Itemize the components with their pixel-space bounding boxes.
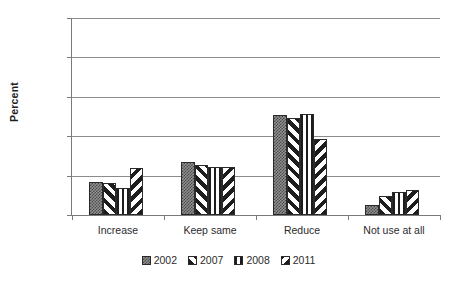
bar-2008-not-use-at-all[interactable] [392, 192, 406, 215]
x-axis-label-reduce: Reduce [256, 224, 348, 236]
bar-group [273, 18, 327, 215]
bar-2002-increase[interactable] [89, 182, 103, 215]
x-tick-mark [72, 215, 73, 220]
bar-2008-keep-same[interactable] [208, 167, 222, 215]
x-tick-mark [348, 215, 349, 220]
bar-2007-increase[interactable] [103, 183, 117, 215]
bar-2008-reduce[interactable] [300, 114, 314, 215]
x-tick-mark [256, 215, 257, 220]
bar-groups [72, 18, 440, 215]
bar-2002-reduce[interactable] [273, 115, 287, 215]
bar-2002-keep-same[interactable] [181, 162, 195, 215]
bar-2008-increase[interactable] [116, 188, 130, 215]
x-axis-label-not-use-at-all: Not use at all [348, 224, 440, 236]
bar-2011-keep-same[interactable] [222, 167, 236, 215]
legend-item-2007[interactable]: 2007 [188, 255, 223, 266]
legend: 2002200720082011 [0, 255, 457, 266]
legend-label-2011: 2011 [293, 255, 316, 266]
legend-label-2008: 2008 [246, 255, 269, 266]
legend-item-2002[interactable]: 2002 [142, 255, 177, 266]
x-axis-label-increase: Increase [72, 224, 164, 236]
legend-label-2002: 2002 [154, 255, 177, 266]
legend-swatch-icon-2011 [281, 256, 290, 265]
bar-2007-not-use-at-all[interactable] [379, 196, 393, 215]
bar-group [89, 18, 143, 215]
legend-swatch-icon-2002 [142, 256, 151, 265]
bar-chart: Percent 020406080100 IncreaseKeep sameRe… [0, 0, 457, 282]
legend-swatch-icon-2008 [234, 256, 243, 265]
bar-2011-not-use-at-all[interactable] [406, 190, 420, 215]
bar-2011-reduce[interactable] [314, 139, 328, 215]
legend-item-2011[interactable]: 2011 [281, 255, 316, 266]
legend-item-2008[interactable]: 2008 [234, 255, 269, 266]
legend-label-2007: 2007 [200, 255, 223, 266]
y-axis-title: Percent [8, 72, 20, 132]
x-tick-mark [164, 215, 165, 220]
bar-2007-reduce[interactable] [287, 118, 301, 215]
bar-group [181, 18, 235, 215]
bar-2011-increase[interactable] [130, 168, 144, 215]
x-tick-mark [440, 215, 441, 220]
bar-2007-keep-same[interactable] [195, 165, 209, 215]
bar-group [365, 18, 419, 215]
x-axis-label-keep-same: Keep same [164, 224, 256, 236]
legend-swatch-icon-2007 [188, 256, 197, 265]
bar-2002-not-use-at-all[interactable] [365, 205, 379, 215]
